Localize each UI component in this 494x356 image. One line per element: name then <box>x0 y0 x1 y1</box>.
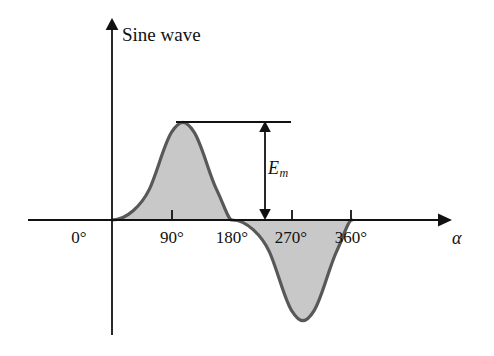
sine-wave-plot <box>0 0 494 356</box>
x-axis-arrowhead <box>438 214 452 227</box>
amplitude-label-subscript: m <box>280 166 289 180</box>
x-tick-label-0-deg: 0° <box>58 228 100 248</box>
sine-wave-figure: Sine wave 0° 90° 180° 270° 360° α Em <box>0 0 494 356</box>
x-tick-label-360-deg: 360° <box>322 228 380 248</box>
chart-title: Sine wave <box>122 24 201 46</box>
x-tick-label-90-deg: 90° <box>150 228 194 248</box>
amplitude-label-symbol: E <box>268 158 279 178</box>
amplitude-arrowhead-down <box>259 209 271 220</box>
amplitude-label: Em <box>268 158 288 181</box>
x-tick-label-180-deg: 180° <box>204 228 260 248</box>
x-axis-label-alpha: α <box>452 228 461 249</box>
x-tick-label-270-deg: 270° <box>262 228 320 248</box>
y-axis-arrowhead <box>106 18 119 30</box>
